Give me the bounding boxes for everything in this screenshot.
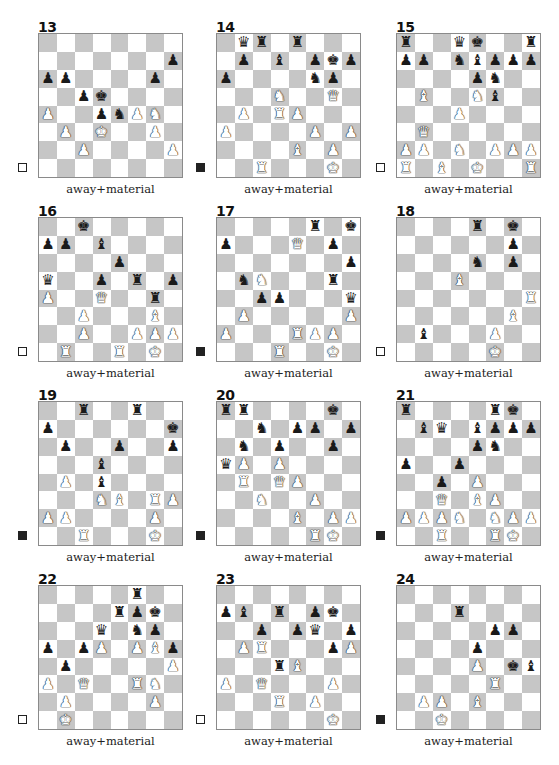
- black-pawn-icon: ♟: [471, 71, 484, 86]
- diagram-caption: away+material: [38, 550, 183, 564]
- white-pawn-icon: ♟: [453, 107, 466, 122]
- square-e2: [111, 325, 129, 343]
- black-pawn-icon: ♟: [435, 475, 448, 490]
- square-f7: ♟: [128, 604, 146, 622]
- white-knight-icon: ♞: [273, 89, 286, 104]
- square-e3: ♝: [111, 491, 129, 509]
- white-knight-icon: ♞: [471, 89, 484, 104]
- square-c8: [253, 402, 271, 420]
- black-rook-icon: ♜: [131, 273, 144, 288]
- square-b1: [57, 527, 75, 545]
- square-b5: [415, 456, 433, 474]
- square-c7: [75, 52, 93, 70]
- black-queen-icon: ♛: [435, 421, 448, 436]
- white-pawn-icon: ♟: [95, 641, 108, 656]
- square-d7: ♝: [93, 236, 111, 254]
- square-b4: ♟: [57, 474, 75, 492]
- square-h4: ♜: [522, 290, 540, 308]
- square-f2: [128, 509, 146, 527]
- black-bishop-icon: ♝: [417, 421, 430, 436]
- square-e6: ♞: [469, 254, 487, 272]
- black-pawn-icon: ♟: [59, 439, 72, 454]
- square-a7: [217, 420, 235, 438]
- diagram-caption: away+material: [216, 182, 361, 196]
- square-g5: ♟: [324, 640, 342, 658]
- square-a4: [397, 290, 415, 308]
- white-pawn-icon: ♟: [59, 695, 72, 710]
- square-c6: [75, 622, 93, 640]
- square-a7: [39, 52, 57, 70]
- square-e8: ♜: [469, 218, 487, 236]
- square-b3: ♟: [57, 123, 75, 141]
- square-f7: ♟: [486, 420, 504, 438]
- white-pawn-icon: ♟: [41, 511, 54, 526]
- square-h6: [522, 622, 540, 640]
- square-f4: [128, 658, 146, 676]
- white-bishop-icon: ♝: [471, 695, 484, 710]
- square-d8: [271, 586, 289, 604]
- square-h4: [164, 290, 182, 308]
- black-knight-icon: ♞: [453, 53, 466, 68]
- white-rook-icon: ♜: [399, 161, 412, 176]
- square-f7: [128, 52, 146, 70]
- square-e5: [289, 88, 307, 106]
- black-knight-icon: ♞: [237, 439, 250, 454]
- square-d8: [271, 402, 289, 420]
- white-pawn-icon: ♟: [166, 493, 179, 508]
- square-h3: [164, 123, 182, 141]
- square-f5: ♜: [128, 272, 146, 290]
- square-h8: [522, 586, 540, 604]
- white-pawn-icon: ♟: [77, 309, 90, 324]
- square-b6: [57, 622, 75, 640]
- square-h8: [164, 402, 182, 420]
- square-g3: [504, 491, 522, 509]
- square-f7: [128, 236, 146, 254]
- square-a4: ♟: [39, 290, 57, 308]
- square-e4: ♟: [289, 106, 307, 124]
- square-h3: [522, 307, 540, 325]
- black-pawn-icon: ♟: [59, 237, 72, 252]
- square-g4: [504, 474, 522, 492]
- square-f8: [486, 34, 504, 52]
- square-b3: [415, 491, 433, 509]
- square-c4: [253, 474, 271, 492]
- square-d2: ♜: [271, 693, 289, 711]
- square-e3: [111, 675, 129, 693]
- square-d4: ♟: [93, 106, 111, 124]
- square-f8: [306, 34, 324, 52]
- square-f1: [306, 343, 324, 361]
- diagram-number: 21: [396, 388, 414, 402]
- square-h8: [164, 586, 182, 604]
- square-a8: [39, 34, 57, 52]
- square-e6: [469, 622, 487, 640]
- black-bishop-icon: ♝: [273, 53, 286, 68]
- square-h8: ♜: [522, 34, 540, 52]
- square-e6: [111, 70, 129, 88]
- square-h2: [164, 693, 182, 711]
- square-a3: [397, 123, 415, 141]
- white-pawn-icon: ♟: [219, 125, 232, 140]
- square-f6: ♞: [486, 438, 504, 456]
- square-f4: [128, 474, 146, 492]
- square-d8: [93, 586, 111, 604]
- square-f5: [486, 456, 504, 474]
- square-d4: ♛: [271, 474, 289, 492]
- white-pawn-icon: ♟: [59, 125, 72, 140]
- square-b3: [235, 123, 253, 141]
- square-c5: [253, 456, 271, 474]
- square-g8: ♚: [504, 402, 522, 420]
- square-a5: [217, 640, 235, 658]
- square-h5: ♟: [164, 272, 182, 290]
- black-pawn-icon: ♟: [309, 53, 322, 68]
- square-a8: [39, 218, 57, 236]
- diagram-number: 15: [396, 20, 414, 34]
- square-f5: [306, 272, 324, 290]
- square-b1: [415, 343, 433, 361]
- square-b6: [235, 254, 253, 272]
- square-h6: [522, 254, 540, 272]
- square-e8: [111, 586, 129, 604]
- square-a5: [39, 456, 57, 474]
- black-pawn-icon: ♟: [41, 71, 54, 86]
- diagram: 24♜♟♟♟♟♚♝♜♟♟♝♚away+material: [396, 585, 559, 765]
- square-h2: ♟: [522, 141, 540, 159]
